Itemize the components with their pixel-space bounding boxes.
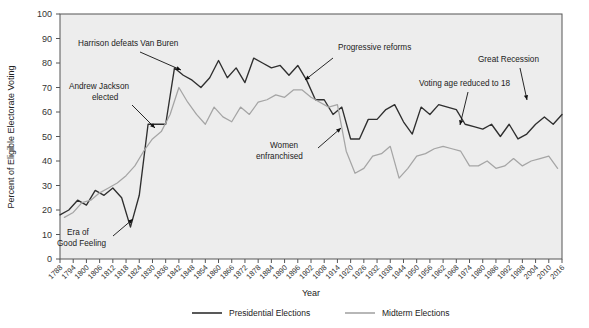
chart-legend: Presidential ElectionsMidterm Elections: [192, 308, 450, 318]
y-tick-label: 30: [42, 181, 52, 191]
annotation-progressive: Progressive reforms: [338, 43, 411, 52]
annotation-jackson-line2: elected: [92, 93, 119, 102]
y-tick-label: 90: [42, 34, 52, 44]
grid-band: [60, 112, 562, 161]
y-tick-label: 10: [42, 230, 52, 240]
y-tick-label: 20: [42, 205, 52, 215]
y-tick-label: 0: [47, 254, 52, 264]
annotation-harrison: Harrison defeats Van Buren: [78, 39, 179, 48]
annotation-women-line2: enfranchised: [256, 152, 303, 161]
y-axis-tick-labels: 0102030405060708090100: [37, 9, 52, 264]
x-axis-ticks: [60, 259, 562, 263]
background-bands: [60, 14, 562, 259]
annotation-voting-age: Voting age reduced to 18: [419, 79, 510, 88]
y-axis-title: Percent of Eligible Electorate Voting: [6, 65, 16, 208]
y-tick-label: 70: [42, 83, 52, 93]
y-tick-label: 100: [37, 9, 52, 19]
x-axis-tick-labels: 1788179418001806181218181824183018361842…: [46, 263, 566, 281]
voter-turnout-line-chart: 0102030405060708090100 17881794180018061…: [0, 0, 589, 328]
annotation-women-line1: Women: [270, 141, 299, 150]
y-tick-label: 50: [42, 132, 52, 142]
annotation-recession: Great Recession: [478, 55, 539, 64]
legend-label-presidential: Presidential Elections: [229, 308, 310, 318]
y-tick-label: 40: [42, 156, 52, 166]
y-axis-ticks: [56, 14, 60, 259]
grid-band: [60, 210, 562, 259]
y-tick-label: 60: [42, 107, 52, 117]
legend-label-midterm: Midterm Elections: [382, 308, 450, 318]
chart-root: 0102030405060708090100 17881794180018061…: [0, 0, 589, 328]
y-tick-label: 80: [42, 58, 52, 68]
x-axis-title: Year: [302, 288, 320, 298]
annotation-era-line2: Good Feeling: [57, 239, 107, 248]
x-tick-label: 2016: [548, 263, 566, 281]
annotation-era-line1: Era of: [67, 228, 90, 237]
grid-band: [60, 161, 562, 210]
annotation-jackson-line1: Andrew Jackson: [69, 82, 130, 91]
